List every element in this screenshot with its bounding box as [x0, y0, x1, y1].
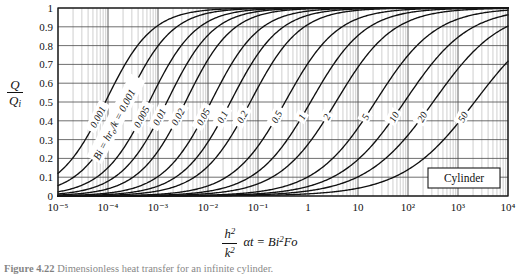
- y-tick-label: 0.6: [39, 77, 53, 89]
- x-axis-label: h2 k2 αt = Bi2Fo: [150, 226, 370, 261]
- x-tick-label: 10⁻²: [198, 201, 219, 213]
- y-tick-label: 0.3: [39, 134, 53, 146]
- y-axis-label-numerator: Q: [7, 78, 23, 93]
- x-axis-label-denominator: k2: [222, 244, 237, 261]
- body-label-text: Cylinder: [444, 172, 484, 185]
- y-tick-label: 1: [48, 2, 54, 14]
- x-tick-label: 10⁻¹: [248, 201, 268, 213]
- y-tick-label: 0.7: [39, 58, 53, 70]
- y-tick-label: 0.8: [39, 40, 53, 52]
- x-tick-label: 10³: [451, 201, 466, 213]
- figure-root: 0.0010.0020.0050.010.020.050.10.20.51251…: [0, 0, 521, 274]
- x-tick-label: 10⁻³: [148, 201, 169, 213]
- y-axis-label: Q Qi: [2, 78, 28, 110]
- y-tick-label: 0.2: [39, 152, 53, 164]
- x-tick-label: 10: [353, 201, 365, 213]
- y-tick-label: 0.5: [39, 96, 53, 108]
- y-tick-label: 0.4: [39, 115, 53, 127]
- x-axis-label-rest: αt = Bi2Fo: [240, 235, 297, 249]
- x-tick-label: 10⁴: [501, 201, 516, 213]
- x-tick-label: 10⁻⁴: [98, 201, 119, 213]
- figure-caption-text: Dimensionless heat transfer for an infin…: [57, 263, 273, 274]
- x-axis-label-numerator: h2: [222, 226, 237, 244]
- figure-caption: Figure 4.22 Dimensionless heat transfer …: [4, 263, 364, 274]
- y-axis-label-denominator: Qi: [7, 93, 23, 110]
- x-tick-label: 10⁻⁵: [48, 201, 69, 213]
- figure-caption-prefix: Figure 4.22: [4, 263, 55, 274]
- y-tick-label: 0.1: [39, 171, 53, 183]
- x-tick-label: 1: [305, 201, 311, 213]
- x-tick-label: 10²: [401, 201, 416, 213]
- y-tick-label: 0.9: [39, 21, 53, 33]
